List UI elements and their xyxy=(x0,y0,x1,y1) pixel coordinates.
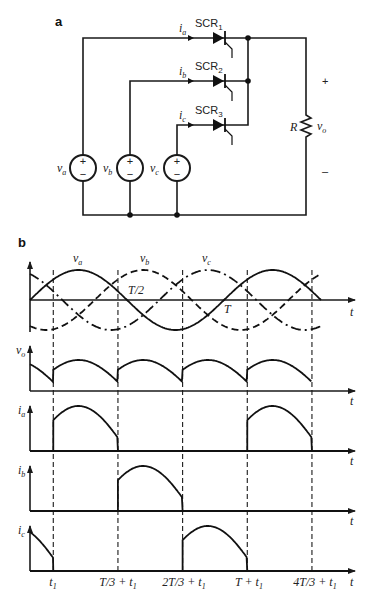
scr3-label: SCR3 xyxy=(195,104,223,119)
t-axis-label: t xyxy=(350,575,354,589)
vo-waveform xyxy=(30,360,311,382)
source-vc: + − vc xyxy=(150,155,190,181)
ia-pulse xyxy=(247,406,312,451)
svg-text:+: + xyxy=(80,155,86,167)
ia-pulse xyxy=(53,406,118,451)
panel-b-label: b xyxy=(18,235,26,250)
svg-text:−: − xyxy=(80,168,86,180)
wire-c xyxy=(177,38,248,155)
waveform-plots xyxy=(30,262,355,574)
output-minus: – xyxy=(322,165,329,177)
svg-text:ib: ib xyxy=(179,64,186,80)
wire-b xyxy=(130,81,248,155)
gate-lead xyxy=(225,42,232,58)
ic-pulse xyxy=(183,526,248,571)
t-axis-label: t xyxy=(350,305,354,319)
svg-text:ic: ic xyxy=(179,108,186,124)
gate-lead xyxy=(225,85,232,101)
panel-a-label: a xyxy=(55,14,63,29)
diode-triangle xyxy=(213,75,224,87)
ic-pulse xyxy=(30,532,53,571)
current-arrow-icon xyxy=(188,78,194,84)
svg-text:−: − xyxy=(127,168,133,180)
tick-label: 2T/3 + t1 xyxy=(162,575,205,591)
junction-dot xyxy=(127,212,133,218)
circuit: ia ib ic SCR1 SCR2 SCR3 + − va + − vb + … xyxy=(57,17,329,218)
junction-dot xyxy=(174,212,180,218)
vb-label: vb xyxy=(140,251,149,267)
resistor-label: R xyxy=(289,120,298,134)
t-axis-label: t xyxy=(350,454,354,468)
diode-triangle xyxy=(213,119,224,131)
scr-1-icon xyxy=(213,31,232,58)
svg-text:vc: vc xyxy=(150,161,159,177)
ia-ylabel: ia xyxy=(18,403,25,419)
svg-text:va: va xyxy=(57,161,66,177)
ic-ylabel: ic xyxy=(18,523,25,539)
tick-label: T/3 + t1 xyxy=(99,575,136,591)
diode-triangle xyxy=(213,32,224,44)
tick-label: T + t1 xyxy=(235,575,263,591)
vo-ylabel: vo xyxy=(16,343,25,359)
ib-ylabel: ib xyxy=(18,463,25,479)
source-va: + − va xyxy=(57,155,96,181)
scr2-label: SCR2 xyxy=(195,60,223,75)
junction-dot xyxy=(245,35,251,41)
tick-label: t1 xyxy=(49,575,56,591)
period-label: T xyxy=(224,302,232,316)
scr1-label: SCR1 xyxy=(195,17,223,32)
scr-2-icon xyxy=(213,74,232,101)
tick-label: 4T/3 + t1 xyxy=(293,575,336,591)
t-axis-label: t xyxy=(350,394,354,408)
figure: a ia ib ic SCR1 SCR2 SCR3 + − xyxy=(0,0,373,605)
junction-dot xyxy=(245,78,251,84)
current-arrow-icon xyxy=(188,35,194,41)
svg-text:+: + xyxy=(174,155,180,167)
wire-a xyxy=(83,38,306,155)
current-arrow-icon xyxy=(188,122,194,128)
svg-text:vb: vb xyxy=(103,161,112,177)
t-axis-label: t xyxy=(350,514,354,528)
bottom-rail xyxy=(83,140,306,215)
svg-text:ia: ia xyxy=(179,21,186,37)
va-label: va xyxy=(73,251,82,267)
output-plus: + xyxy=(322,75,328,87)
gate-lead xyxy=(225,129,232,145)
svg-text:−: − xyxy=(174,168,180,180)
vc-label: vc xyxy=(202,251,211,267)
output-voltage-label: vo xyxy=(317,119,326,135)
resistor-icon xyxy=(301,113,311,140)
scr-3-icon xyxy=(213,118,232,145)
half-period-label: T/2 xyxy=(128,283,144,297)
svg-text:+: + xyxy=(127,155,133,167)
ib-pulse xyxy=(118,466,183,511)
source-vb: + − vb xyxy=(103,155,143,181)
